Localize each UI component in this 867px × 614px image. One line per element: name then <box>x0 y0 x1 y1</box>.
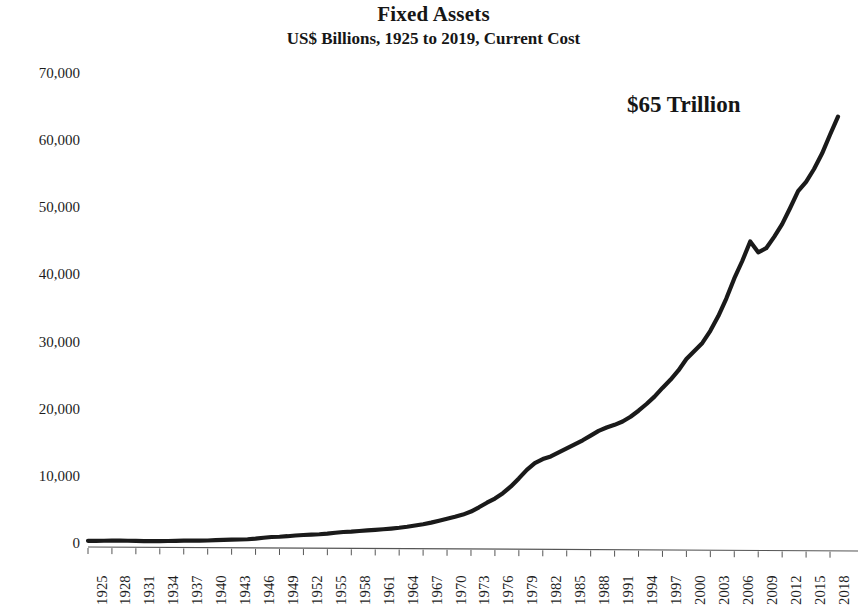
x-tick-label: 1952 <box>309 575 326 605</box>
x-tick-label: 1958 <box>357 575 374 605</box>
x-tick-label: 1925 <box>94 575 111 605</box>
x-tick-label: 1982 <box>548 575 565 605</box>
x-tick-label: 2012 <box>788 575 805 605</box>
x-tick-label: 1931 <box>141 575 158 605</box>
x-tick-label: 2000 <box>692 575 709 605</box>
x-tick-label: 1979 <box>524 575 541 605</box>
x-tick-label: 1967 <box>429 575 446 605</box>
x-tick-label: 1961 <box>381 575 398 605</box>
x-tick-label: 2006 <box>740 575 757 605</box>
x-tick-label: 1949 <box>285 575 302 605</box>
x-tick-label: 1973 <box>476 575 493 605</box>
x-tick-label: 1934 <box>165 575 182 605</box>
x-tick-label: 1928 <box>117 575 134 605</box>
x-tick-label: 1991 <box>620 575 637 605</box>
x-tick-label: 1994 <box>644 575 661 605</box>
x-tick-label: 2015 <box>812 575 829 605</box>
x-tick-label: 1937 <box>189 575 206 605</box>
x-tick-label: 1970 <box>453 575 470 605</box>
x-tick-label: 1988 <box>596 575 613 605</box>
x-tick-label: 2009 <box>764 575 781 605</box>
x-tick-label: 1985 <box>572 575 589 605</box>
x-tick-label: 1946 <box>261 575 278 605</box>
x-tick-label: 1976 <box>500 575 517 605</box>
x-tick-label: 2018 <box>836 575 853 605</box>
x-tick-label: 1964 <box>405 575 422 605</box>
fixed-assets-line-chart: Fixed Assets US$ Billions, 1925 to 2019,… <box>0 0 867 614</box>
x-tick-label: 1940 <box>213 575 230 605</box>
x-tick-label: 1943 <box>237 575 254 605</box>
x-tick-label: 2003 <box>716 575 733 605</box>
x-tick-label: 1955 <box>333 575 350 605</box>
x-axis-labels: 1925192819311934193719401943194619491952… <box>0 0 867 614</box>
x-tick-label: 1997 <box>668 575 685 605</box>
